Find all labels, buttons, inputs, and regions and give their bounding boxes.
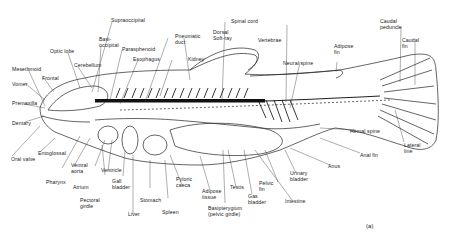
label-optic-lobe: Optic lobe xyxy=(50,48,74,54)
label-spleen: Spleen xyxy=(162,209,179,215)
label-caudal-fin: Caudal fin xyxy=(402,37,419,49)
label-pharynx: Pharynx xyxy=(46,179,66,185)
panel-label: (a) xyxy=(366,223,374,229)
label-basipterygium: Basipterygium (pelvic girdle) xyxy=(208,205,242,217)
label-dentary: Dentary xyxy=(12,120,31,126)
label-atrium: Atrium xyxy=(73,184,89,190)
label-spinal-cord: Spinal cord xyxy=(231,18,258,24)
label-oral-valve: Oral valve xyxy=(11,156,35,162)
label-lateral-line: Lateral line xyxy=(404,142,421,154)
label-gas-bladder: Gas bladder xyxy=(248,193,266,205)
label-mesethmoid: Mesethmoid xyxy=(12,66,41,72)
label-pyloric-caeca: Pyloric caeca xyxy=(176,176,192,188)
label-basioccipital: Basi- occipital xyxy=(99,36,119,48)
label-anus: Anus xyxy=(328,163,340,169)
label-dorsal-soft-ray: Dorsal Soft-ray xyxy=(213,29,232,41)
label-adipose-fin: Adipose fin xyxy=(334,43,353,55)
label-pneumatic-duct: Pneumatic duct xyxy=(175,33,200,45)
label-ventricle: Ventricle xyxy=(101,167,122,173)
label-vertebrae: Vertebrae xyxy=(258,37,281,43)
catfish-anatomy-diagram: Supraoccipital Basi- occipital Parasphen… xyxy=(0,0,450,233)
label-esophagus: Esophagus xyxy=(133,56,160,62)
label-vomer: Vomer xyxy=(12,81,28,87)
label-pelvic-fin: Pelvic fin xyxy=(259,180,273,192)
label-urinary-bladder: Urinary bladder xyxy=(290,170,308,182)
label-entoglossal: Entoglossal xyxy=(38,150,66,156)
label-gall-bladder: Gall bladder xyxy=(112,178,130,190)
label-neural-spine: Neural spine xyxy=(283,60,313,66)
label-intestine: Intestine xyxy=(285,198,306,204)
label-adipose-tissue: Adipose tissue xyxy=(202,188,221,200)
label-kidney: Kidney xyxy=(188,56,204,62)
label-testis: Testis xyxy=(230,184,244,190)
label-premaxilla: Premaxilla xyxy=(12,100,37,106)
label-frontal: Frontal xyxy=(42,75,59,81)
label-pectoral-girdle: Pectoral girdle xyxy=(80,197,100,209)
label-caudal-peduncle: Caudal peduncle xyxy=(380,18,402,30)
label-liver: Liver xyxy=(128,211,140,217)
label-cerebellum: Cerebellum xyxy=(74,62,102,68)
label-supraoccipital: Supraoccipital xyxy=(111,17,145,23)
label-stomach: Stomach xyxy=(140,197,161,203)
label-anal-fin: Anal fin xyxy=(360,152,378,158)
label-ventral-aorta: Ventral aorta xyxy=(71,162,88,174)
label-hemal-spine: Hemal spine xyxy=(350,128,380,134)
label-parasphenoid: Parasphenoid xyxy=(122,46,155,52)
